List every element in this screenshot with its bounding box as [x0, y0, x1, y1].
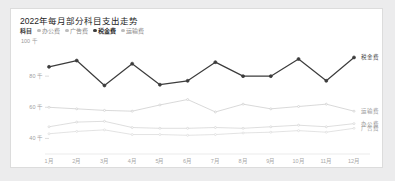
data-point: [76, 121, 78, 123]
svg-text:9月: 9月: [266, 158, 275, 165]
data-point: [48, 126, 50, 128]
data-point: [131, 127, 133, 129]
data-point: [270, 131, 272, 133]
data-point: [159, 127, 161, 129]
chart-card: 2022年每月部分科目支出走势 科目 办公费 广告费 税金费 运输费 100 千…: [10, 8, 383, 168]
data-point: [131, 134, 133, 136]
data-point: [131, 110, 133, 112]
svg-text:4月: 4月: [128, 158, 137, 165]
svg-text:7月: 7月: [211, 158, 220, 165]
data-point: [131, 62, 134, 65]
series-end-label: 广告费: [361, 124, 379, 132]
svg-text:12月: 12月: [348, 158, 360, 165]
x-axis: 1月2月3月4月5月6月7月8月9月10月11月12月: [44, 154, 370, 165]
series-group: [48, 56, 356, 136]
data-point: [242, 103, 244, 105]
data-point: [298, 130, 300, 132]
svg-text:40 千: 40 千: [29, 134, 43, 142]
svg-text:11月: 11月: [320, 158, 332, 165]
y-axis: 80 千60 千40 千: [29, 72, 49, 142]
data-point: [325, 79, 328, 82]
data-point: [325, 126, 327, 128]
data-point: [76, 108, 78, 110]
series-end-label: 运输费: [361, 107, 379, 115]
series-end-label: 税金费: [361, 53, 379, 61]
data-point: [325, 131, 327, 133]
data-point: [103, 109, 105, 111]
data-point: [242, 75, 245, 78]
svg-text:5月: 5月: [155, 158, 164, 165]
data-point: [103, 120, 105, 122]
data-point: [298, 124, 300, 126]
data-point: [187, 127, 189, 129]
data-point: [187, 99, 189, 101]
data-point: [353, 127, 355, 129]
data-point: [214, 61, 217, 64]
svg-text:60 千: 60 千: [29, 103, 43, 111]
data-point: [353, 56, 356, 59]
series-line: [49, 128, 354, 135]
svg-text:8月: 8月: [239, 158, 248, 165]
data-point: [270, 126, 272, 128]
data-point: [186, 79, 189, 82]
data-point: [298, 106, 300, 108]
data-point: [187, 134, 189, 136]
data-point: [48, 133, 50, 135]
data-point: [76, 130, 78, 132]
data-point: [214, 127, 216, 129]
svg-text:6月: 6月: [183, 158, 192, 165]
svg-text:1月: 1月: [44, 158, 53, 165]
series-line: [49, 100, 354, 112]
svg-text:80 千: 80 千: [29, 72, 43, 80]
series-line: [49, 57, 354, 85]
data-point: [297, 58, 300, 61]
data-point: [103, 129, 105, 131]
data-point: [325, 103, 327, 105]
data-point: [242, 132, 244, 134]
data-point: [270, 108, 272, 110]
data-point: [269, 75, 272, 78]
data-point: [159, 134, 161, 136]
data-point: [159, 104, 161, 106]
svg-text:10月: 10月: [292, 158, 304, 165]
data-point: [48, 106, 50, 108]
series-end-labels: 税金费运输费办公费广告费: [361, 53, 379, 132]
svg-text:2月: 2月: [72, 158, 81, 165]
data-point: [353, 110, 355, 112]
series-line: [49, 121, 354, 128]
data-point: [103, 84, 106, 87]
data-point: [353, 123, 355, 125]
data-point: [75, 59, 78, 62]
data-point: [242, 127, 244, 129]
line-chart: 80 千60 千40 千 1月2月3月4月5月6月7月8月9月10月11月12月…: [11, 9, 384, 167]
chart-svg: 80 千60 千40 千 1月2月3月4月5月6月7月8月9月10月11月12月…: [11, 9, 384, 167]
svg-text:3月: 3月: [100, 158, 109, 165]
data-point: [214, 134, 216, 136]
data-point: [48, 65, 51, 68]
data-point: [158, 83, 161, 86]
data-point: [214, 111, 216, 113]
